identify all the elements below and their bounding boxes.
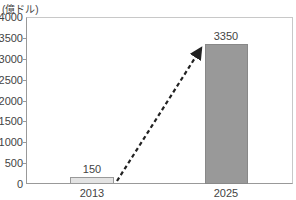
growth-arrow-icon [0, 0, 296, 200]
